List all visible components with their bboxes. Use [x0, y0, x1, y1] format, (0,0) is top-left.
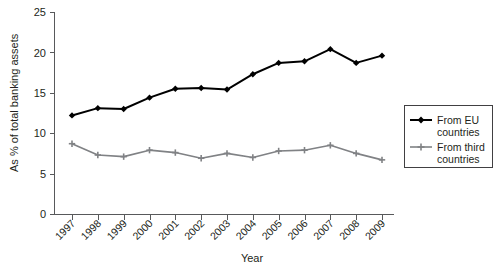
- data-point-marker: [301, 147, 307, 153]
- y-tick-label: 25: [34, 6, 46, 18]
- x-tick-label: 2007: [311, 217, 336, 242]
- data-point-marker: [95, 105, 101, 111]
- series-from-third-countries: [69, 141, 385, 164]
- legend-label-third-line1: From third: [437, 141, 485, 153]
- data-point-marker: [198, 85, 204, 91]
- y-tick-label: 20: [34, 47, 46, 59]
- y-tick-label: 10: [34, 127, 46, 139]
- x-axis-tick-labels: 1997199819992000200120022003200420052006…: [52, 217, 387, 242]
- data-point-marker: [95, 152, 101, 158]
- x-tick-label: 2001: [156, 217, 181, 242]
- data-point-marker: [172, 149, 178, 155]
- data-point-marker: [353, 150, 359, 156]
- legend-label-third-line2: countries: [437, 153, 480, 165]
- data-point-marker: [379, 52, 385, 58]
- chart-figure: 0 5 10 15 20 25 As % of total banking as…: [0, 0, 502, 275]
- chart-legend: From EU countries From third countries: [405, 106, 493, 168]
- x-tick-label: 2005: [259, 217, 284, 242]
- data-point-marker: [120, 106, 126, 112]
- x-tick-label: 2002: [182, 217, 207, 242]
- x-tick-label: 1997: [52, 217, 77, 242]
- line-chart-svg: 0 5 10 15 20 25 As % of total banking as…: [0, 0, 502, 275]
- legend-label-eu-line1: From EU: [437, 114, 479, 126]
- data-point-marker: [224, 150, 230, 156]
- data-point-marker: [379, 157, 385, 163]
- series-line: [72, 49, 382, 115]
- data-point-marker: [146, 94, 152, 100]
- data-point-marker: [120, 153, 126, 159]
- y-axis-ticks: [50, 13, 55, 215]
- x-tick-label: 2003: [207, 217, 232, 242]
- data-point-marker: [250, 154, 256, 160]
- data-point-marker: [198, 155, 204, 161]
- data-point-marker: [146, 147, 152, 153]
- data-point-marker: [69, 112, 75, 118]
- data-point-marker: [327, 142, 333, 148]
- data-point-marker: [275, 148, 281, 154]
- y-axis-tick-labels: 0 5 10 15 20 25: [34, 6, 46, 220]
- y-tick-label: 0: [40, 208, 46, 220]
- x-tick-label: 2004: [233, 217, 258, 242]
- y-axis-title: As % of total banking assets: [8, 33, 20, 172]
- y-tick-label: 5: [40, 168, 46, 180]
- x-tick-label: 2006: [285, 217, 310, 242]
- x-tick-label: 2009: [362, 217, 387, 242]
- x-tick-label: 1998: [78, 217, 103, 242]
- data-point-marker: [275, 60, 281, 66]
- legend-label-eu-line2: countries: [437, 126, 480, 138]
- series-from-eu-countries: [69, 46, 385, 119]
- x-axis-title: Year: [241, 252, 264, 264]
- data-point-marker: [301, 58, 307, 64]
- x-tick-label: 1999: [104, 217, 129, 242]
- y-tick-label: 15: [34, 87, 46, 99]
- x-tick-label: 2008: [337, 217, 362, 242]
- data-point-marker: [69, 141, 75, 147]
- data-point-marker: [172, 86, 178, 92]
- x-tick-label: 2000: [130, 217, 155, 242]
